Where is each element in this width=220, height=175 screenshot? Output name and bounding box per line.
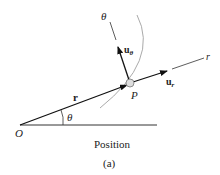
unit-theta-label: uθ bbox=[124, 44, 134, 57]
unit-vector-r bbox=[133, 71, 167, 82]
point-label: P bbox=[130, 89, 138, 101]
unit-r-label: ur bbox=[166, 76, 175, 89]
angle-arc bbox=[61, 110, 63, 125]
r-axis-line bbox=[172, 58, 204, 69]
r-axis-label: r bbox=[206, 51, 210, 62]
theta-axis-line bbox=[110, 22, 116, 40]
position-vector-label: r bbox=[73, 91, 78, 103]
origin-label: O bbox=[15, 127, 23, 139]
particle-p bbox=[126, 79, 134, 87]
caption: Position bbox=[94, 138, 131, 150]
angle-label: θ bbox=[67, 111, 73, 123]
subcaption: (a) bbox=[103, 157, 116, 170]
polar-coordinates-diagram: θ uθ r ur P r θ O Position (a) bbox=[0, 0, 220, 175]
theta-axis-label: θ bbox=[101, 10, 107, 22]
